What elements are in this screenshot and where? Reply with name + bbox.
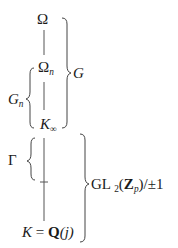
gl-suffix: /±1 (144, 176, 164, 192)
brace-gl2 (80, 134, 89, 242)
g-n-label: G (8, 91, 19, 107)
omega-n-label: Ω (38, 59, 49, 75)
g-label: G (73, 65, 84, 81)
omega-label: Ω (37, 11, 48, 27)
base-field-k: K (22, 224, 32, 240)
gl-text: GL (91, 176, 110, 192)
node-k-infinity: K∞ (40, 117, 57, 132)
node-omega: Ω (37, 12, 48, 27)
brace-gl2-label: GL 2(Zp)/±1 (91, 177, 163, 192)
base-field-q: Q (48, 224, 60, 240)
brace-g-label: G (73, 66, 84, 81)
base-field-argument: (j) (60, 224, 74, 240)
brace-gamma-label: Γ (8, 153, 17, 168)
node-omega-n: Ωn (38, 60, 54, 75)
k-infinity-subscript: ∞ (50, 124, 57, 134)
gl-ring: Z (124, 176, 134, 192)
brace-g (62, 18, 71, 128)
brace-gamma (27, 138, 35, 180)
diagram-lines (0, 0, 178, 248)
base-field-equals: = (36, 224, 44, 240)
k-infinity-label: K (40, 116, 50, 132)
brace-g-n-label: Gn (8, 92, 24, 107)
node-base-field: K = Q(j) (22, 225, 74, 240)
brace-g-n (26, 68, 34, 128)
g-n-subscript: n (19, 99, 24, 109)
omega-n-subscript: n (49, 67, 54, 77)
gamma-label: Γ (8, 152, 17, 168)
